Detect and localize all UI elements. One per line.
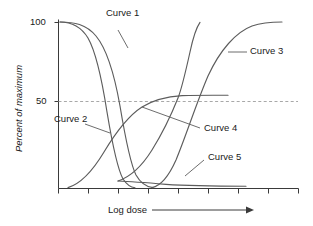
y-tick-label-50: 50 bbox=[36, 96, 47, 106]
chart-plot-area bbox=[0, 0, 313, 226]
curve-4-label: Curve 4 bbox=[204, 123, 237, 133]
curve-5-label: Curve 5 bbox=[208, 152, 241, 162]
y-axis-title: Percent of maximum bbox=[13, 49, 24, 169]
curve-1-path bbox=[60, 22, 153, 188]
curve-5-leader bbox=[185, 160, 204, 176]
log-dose-arrow-head bbox=[246, 207, 254, 214]
chart-figure: 100 50 Percent of maximum Log dose Curve… bbox=[0, 0, 313, 226]
curve-4-leader bbox=[142, 107, 200, 128]
curve-3-label: Curve 3 bbox=[250, 46, 283, 56]
curve-2-leader bbox=[85, 124, 110, 133]
x-axis-ticks bbox=[59, 189, 299, 194]
curve-5-tail-path bbox=[118, 181, 246, 186]
curve-1-label: Curve 1 bbox=[106, 8, 139, 18]
curve-1-leader bbox=[118, 30, 128, 48]
x-axis-title: Log dose bbox=[108, 205, 147, 215]
curve-2-label: Curve 2 bbox=[54, 114, 87, 124]
y-tick-label-100: 100 bbox=[30, 17, 46, 27]
